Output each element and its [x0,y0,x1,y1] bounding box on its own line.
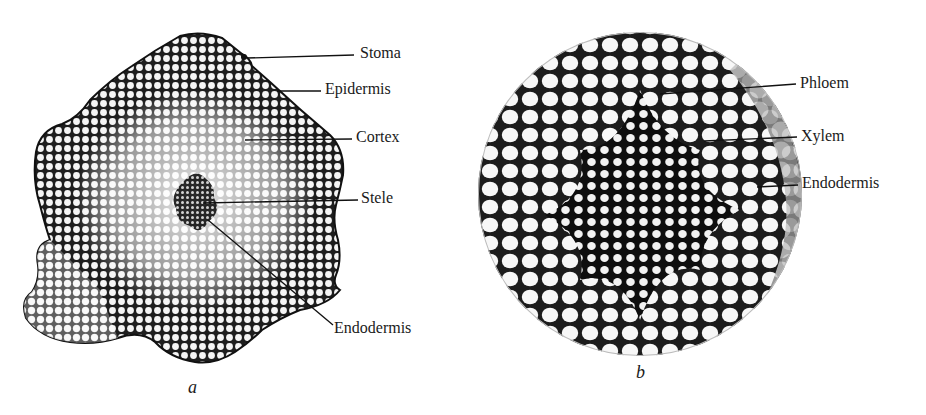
panel-a-cross-section [24,33,343,362]
caption-b: b [636,362,645,383]
label-cortex: Cortex [356,128,400,146]
label-stoma: Stoma [360,44,401,62]
panel-b-micrograph [470,25,810,365]
label-epidermis: Epidermis [325,80,391,98]
label-stele: Stele [361,189,393,207]
label-phloem: Phloem [800,74,849,92]
label-xylem: Xylem [801,127,845,145]
figure-canvas [0,0,926,415]
label-endodermis-a: Endodermis [334,319,411,337]
label-endodermis-b: Endodermis [802,174,879,192]
caption-a: a [188,377,197,398]
